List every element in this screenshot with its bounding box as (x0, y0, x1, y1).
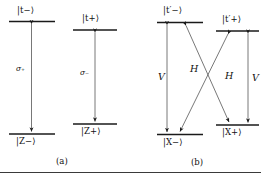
panel-b-coupling-label-vertical-left: V (158, 71, 165, 82)
panel-b-transition-arrow-diagonal-right (180, 34, 228, 132)
panel-b-upper-right-state-label: |t′+⟩ (222, 15, 241, 24)
panel-a-caption: (a) (56, 156, 68, 166)
panel-a-coupling-label-left: σ₊ (16, 64, 25, 73)
panel-b-lower-left-state-label: |X−⟩ (163, 138, 183, 147)
panel-b-lower-right-state-label: |X+⟩ (222, 128, 242, 137)
panel-a-upper-left-state-label: |t−⟩ (17, 6, 34, 15)
panel-b-upper-left-state-label: |t′−⟩ (163, 6, 182, 15)
panel-b-coupling-label-vertical-right: V (252, 72, 259, 83)
panel-a-upper-right-state-label: |t+⟩ (82, 14, 99, 23)
panel-a-lower-right-state-label: |Z+⟩ (81, 127, 101, 136)
panel-b-caption: (b) (191, 157, 203, 167)
panel-b-coupling-label-diagonal-right: H (225, 70, 233, 81)
energy-level-figure: |t−⟩ |Z−⟩ |t+⟩ |Z+⟩ σ₊ σ₋ |t′−⟩ |t′+⟩ |X… (0, 0, 261, 174)
panel-b-coupling-label-diagonal-left: H (190, 63, 198, 74)
panel-a-lower-left-state-label: |Z−⟩ (16, 137, 36, 146)
panel-a-coupling-label-right: σ₋ (80, 68, 89, 77)
figure-vector-layer (0, 0, 261, 174)
figure-bottom-divider (0, 172, 261, 173)
